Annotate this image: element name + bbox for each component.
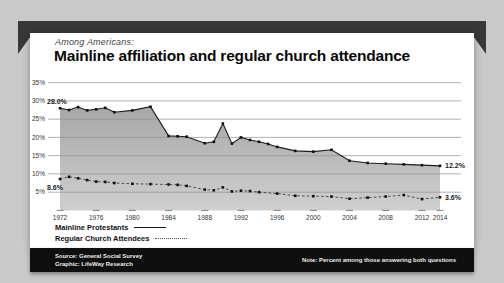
data-point-marker <box>249 190 252 193</box>
legend-item-mainline: Mainline Protestants <box>55 222 187 233</box>
y-axis-tick-label: 5% <box>36 188 46 195</box>
data-point-marker <box>258 140 261 143</box>
data-point-marker <box>104 107 107 110</box>
data-point-marker <box>222 186 225 189</box>
data-point-marker <box>403 163 406 166</box>
series-end-value-label: 3.6% <box>445 194 462 201</box>
chart-canvas: 35%30%25%20%15%10%5%19721976198019841988… <box>30 33 474 248</box>
legend-label-attendees: Regular Church Attendees <box>55 234 149 243</box>
data-point-marker <box>366 162 369 165</box>
y-axis-tick-label: 10% <box>32 170 45 177</box>
x-axis-tick-label: 1972 <box>53 214 68 221</box>
data-point-marker <box>403 194 406 197</box>
x-axis-tick-label: 2000 <box>306 214 321 221</box>
data-point-marker <box>348 159 351 162</box>
data-point-marker <box>348 197 351 200</box>
data-point-marker <box>240 136 243 139</box>
data-point-marker <box>231 142 234 145</box>
data-point-marker <box>104 181 107 184</box>
data-point-marker <box>86 179 89 182</box>
data-point-marker <box>68 109 71 112</box>
x-axis-tick-label: 2008 <box>378 214 393 221</box>
y-axis-tick-label: 25% <box>32 115 45 122</box>
data-point-marker <box>294 195 297 198</box>
data-point-marker <box>421 198 424 201</box>
legend-item-attendees: Regular Church Attendees <box>55 233 187 244</box>
data-point-marker <box>213 140 216 143</box>
infographic: Among Americans: Mainline affiliation an… <box>0 0 504 283</box>
y-axis-tick-label: 35% <box>32 79 45 86</box>
series-start-value-label: 28.0% <box>47 98 68 105</box>
data-point-marker <box>77 106 80 109</box>
data-point-marker <box>231 190 234 193</box>
x-axis-tick-label: 1992 <box>234 214 249 221</box>
footer-bar: Source: General Social Survey Graphic: L… <box>30 248 474 272</box>
data-point-marker <box>384 162 387 165</box>
footer-source: Source: General Social Survey <box>55 252 142 260</box>
data-point-marker <box>59 178 62 181</box>
data-point-marker <box>294 150 297 153</box>
data-point-marker <box>203 142 206 145</box>
data-point-marker <box>185 135 188 138</box>
x-axis-tick-label: 1976 <box>89 214 104 221</box>
footer-graphic-credit: Graphic: LifeWay Research <box>55 260 142 268</box>
data-point-marker <box>384 195 387 198</box>
y-axis-tick-label: 30% <box>32 97 45 104</box>
data-point-marker <box>149 105 152 108</box>
data-point-marker <box>249 139 252 142</box>
data-point-marker <box>131 109 134 112</box>
data-point-marker <box>176 184 179 187</box>
data-point-marker <box>95 180 98 183</box>
data-point-marker <box>95 108 98 111</box>
data-point-marker <box>276 192 279 195</box>
data-point-marker <box>86 109 89 112</box>
data-point-marker <box>113 182 116 185</box>
data-point-marker <box>149 183 152 186</box>
legend-label-mainline: Mainline Protestants <box>55 223 128 232</box>
series-start-value-label: 8.6% <box>47 184 64 191</box>
data-point-marker <box>222 122 225 125</box>
x-axis-tick-label: 2012 <box>415 214 430 221</box>
x-axis-tick-label: 2004 <box>342 214 357 221</box>
data-point-marker <box>267 143 270 146</box>
series-end-value-label: 12.2% <box>445 162 466 169</box>
data-point-marker <box>213 189 216 192</box>
data-point-marker <box>439 196 442 199</box>
data-point-marker <box>185 185 188 188</box>
y-axis-tick-label: 15% <box>32 152 45 159</box>
data-point-marker <box>131 182 134 185</box>
data-point-marker <box>330 195 333 198</box>
data-point-marker <box>113 111 116 114</box>
data-point-marker <box>77 177 80 180</box>
data-point-marker <box>203 188 206 191</box>
data-point-marker <box>312 195 315 198</box>
footer-note: Note: Percent among those answering both… <box>302 257 456 263</box>
data-point-marker <box>240 189 243 192</box>
y-axis-tick-label: 20% <box>32 134 45 141</box>
solid-line-swatch <box>134 227 166 228</box>
chart-panel: Among Americans: Mainline affiliation an… <box>30 33 474 248</box>
x-axis-tick-label: 1980 <box>125 214 140 221</box>
data-point-marker <box>167 135 170 138</box>
data-point-marker <box>176 135 179 138</box>
x-axis-tick-label: 1988 <box>198 214 213 221</box>
x-axis-tick-label: 1984 <box>161 214 176 221</box>
footer-credits: Source: General Social Survey Graphic: L… <box>55 252 142 268</box>
area-fill <box>60 107 440 211</box>
data-point-marker <box>312 150 315 153</box>
chart-legend: Mainline Protestants Regular Church Atte… <box>55 222 187 244</box>
data-point-marker <box>167 183 170 186</box>
data-point-marker <box>276 146 279 149</box>
data-point-marker <box>68 176 71 179</box>
x-axis-tick-label: 1996 <box>270 214 285 221</box>
data-point-marker <box>366 196 369 199</box>
data-point-marker <box>421 164 424 167</box>
data-point-marker <box>330 149 333 152</box>
data-point-marker <box>59 107 62 110</box>
dotted-line-swatch <box>155 238 187 239</box>
x-axis-tick-label: 2014 <box>433 214 448 221</box>
data-point-marker <box>439 165 442 168</box>
data-point-marker <box>258 191 261 194</box>
